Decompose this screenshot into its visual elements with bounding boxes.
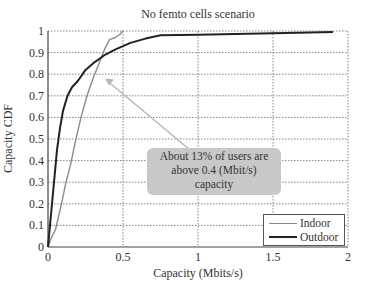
annotation-line-2: above 0.4 (Mbit/s) (147, 163, 281, 177)
y-tick-label: 0.5 (29, 132, 44, 146)
y-tick-label: 0 (38, 240, 44, 254)
x-tick-label: 0 (45, 250, 51, 264)
legend: Indoor Outdoor (263, 214, 345, 246)
y-tick-label: 0.6 (29, 110, 44, 124)
outdoor-line-swatch (269, 236, 297, 238)
x-tick-label: 2 (345, 250, 351, 264)
annotation-box: About 13% of users are above 0.4 (Mbit/s… (147, 148, 281, 195)
x-tick-label: 0.5 (116, 250, 131, 264)
legend-label-outdoor: Outdoor (300, 231, 338, 243)
y-tick-label: 0.4 (29, 154, 44, 168)
x-tick-label: 1.5 (266, 250, 281, 264)
y-axis-label: Capacity CDF (1, 89, 16, 189)
chart-plot: 00.511.5200.10.20.30.40.50.60.70.80.91 (0, 0, 365, 293)
annotation-line-3: capacity (147, 177, 281, 191)
legend-item-indoor: Indoor (269, 216, 331, 230)
y-tick-label: 0.2 (29, 197, 44, 211)
x-axis-label: Capacity (Mbits/s) (48, 266, 348, 281)
annotation-line-1: About 13% of users are (147, 149, 281, 163)
legend-item-outdoor: Outdoor (269, 230, 338, 244)
y-tick-label: 1 (38, 24, 44, 38)
indoor-line-swatch (269, 223, 297, 224)
y-tick-label: 0.7 (29, 89, 44, 103)
legend-label-indoor: Indoor (300, 217, 331, 229)
y-tick-label: 0.3 (29, 175, 44, 189)
chart-title: No femto cells scenario (48, 7, 348, 22)
y-tick-label: 0.1 (29, 218, 44, 232)
y-tick-label: 0.9 (29, 46, 44, 60)
x-tick-label: 1 (195, 250, 201, 264)
y-tick-label: 0.8 (29, 67, 44, 81)
